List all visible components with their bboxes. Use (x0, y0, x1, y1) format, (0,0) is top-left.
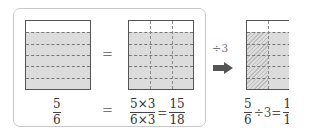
equals-sign: = (157, 106, 167, 120)
right-arrow-icon (213, 62, 233, 74)
divide-operator: ÷3= (254, 106, 282, 120)
fraction-model-5-6 (25, 20, 91, 90)
fraction-5-6: 5 6 (53, 98, 61, 127)
shaded-region (129, 32, 193, 89)
row-divider (26, 55, 90, 56)
hatched-region (247, 32, 268, 89)
shaded-region (26, 32, 90, 89)
numerator: 15 (169, 98, 184, 111)
denominator: 18 (169, 114, 184, 127)
denominator: 6 (53, 114, 61, 127)
row-divider (129, 78, 193, 79)
row-divider (129, 44, 193, 45)
equals-sign: = (102, 102, 113, 117)
denominator: 1 (283, 114, 289, 127)
division-expression: 5 6 ÷3= 1 1 (244, 98, 289, 127)
row-divider (26, 66, 90, 67)
multiplication-expression: 5×3 6×3 = 15 18 (130, 98, 185, 127)
fraction-model-divided (246, 20, 289, 90)
column-divider (150, 21, 151, 89)
column-divider (268, 21, 269, 89)
row-divider (26, 78, 90, 79)
numerator: 5 (53, 98, 61, 111)
row-divider (129, 32, 193, 33)
fraction-model-15-18 (128, 20, 194, 90)
fraction-15-18: 15 18 (169, 98, 184, 127)
equals-sign: = (102, 46, 113, 61)
fraction-5-6: 5 6 (244, 98, 252, 127)
result-fraction: 1 1 (283, 98, 289, 127)
row-divider (129, 66, 193, 67)
column-divider (172, 21, 173, 89)
numerator: 5 (244, 98, 252, 111)
numerator: 1 (283, 98, 289, 111)
denominator: 6×3 (130, 114, 155, 127)
fraction-5x3-6x3: 5×3 6×3 (130, 98, 155, 127)
numerator: 5×3 (130, 98, 155, 111)
row-divider (129, 55, 193, 56)
denominator: 6 (244, 114, 252, 127)
divide-by-3-label: ÷3 (212, 42, 228, 55)
row-divider (26, 44, 90, 45)
row-divider (26, 32, 90, 33)
